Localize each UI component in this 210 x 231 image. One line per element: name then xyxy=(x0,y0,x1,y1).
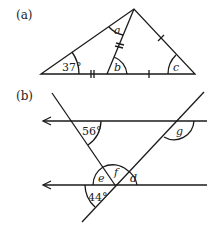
angle-label-37: 37° xyxy=(62,61,82,74)
angle-label-f: f xyxy=(113,166,120,179)
angle-label-44: 44° xyxy=(88,191,108,204)
angle-label-b: b xyxy=(114,61,121,74)
angle-label-e: e xyxy=(98,172,105,185)
angle-label-g: g xyxy=(176,125,183,138)
angle-label-a: a xyxy=(114,24,121,37)
angle-label-d: d xyxy=(130,172,137,185)
part-label-a: (a) xyxy=(16,8,33,22)
transversal-left xyxy=(52,93,115,185)
angle-label-c: c xyxy=(173,61,179,74)
angle-label-56: 56° xyxy=(82,125,102,138)
figure-b xyxy=(43,92,207,222)
part-label-b: (b) xyxy=(16,89,33,103)
geometry-figure: (a) 37° a b c (b) 56° g e f d 44° xyxy=(0,0,210,231)
